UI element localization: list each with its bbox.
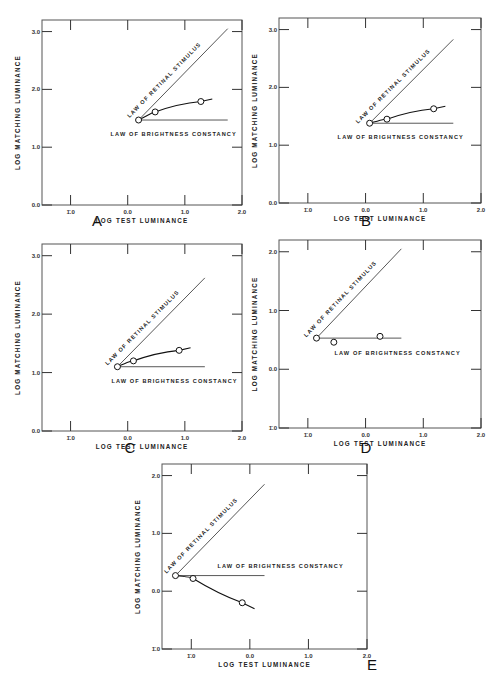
x-tick-label: 0.0: [246, 653, 255, 659]
x-axis-label: LOG TEST LUMINANCE: [334, 440, 427, 447]
brightness-constancy-label: LAW OF BRIGHTNESS CONSTANCY: [217, 563, 343, 569]
panel-letter: D: [361, 439, 372, 456]
retinal-stimulus-label: LAW OF RETINAL STIMULUS: [104, 289, 180, 367]
y-tick-label: 0.0: [269, 366, 278, 372]
panel-letter: C: [125, 439, 136, 456]
data-point: [331, 339, 337, 345]
panel-b: 1̄.00.01.02.00.01.02.03.0LOG TEST LUMINA…: [251, 18, 486, 229]
x-tick-label: 1.0: [181, 209, 190, 215]
y-tick-label: 1.0: [269, 308, 278, 314]
y-tick-label: 1.0: [32, 370, 41, 376]
panel-letter: A: [92, 212, 102, 229]
x-tick-label: 2.0: [477, 432, 486, 438]
retinal-stimulus-line: [139, 29, 228, 120]
x-tick-label: 1̄.0: [304, 207, 313, 213]
x-tick-label: 1̄.0: [66, 209, 75, 215]
retinal-stimulus-label: LAW OF RETINAL STIMULUS: [355, 47, 432, 124]
figure-svg: 1̄.00.01.02.00.01.02.03.0LOG TEST LUMINA…: [0, 0, 493, 681]
y-tick-label: 2.0: [269, 84, 278, 90]
x-tick-label: 1.0: [419, 432, 428, 438]
x-axis-label: LOG TEST LUMINANCE: [218, 661, 311, 668]
y-tick-label: 2.0: [32, 86, 41, 92]
brightness-constancy-label: LAW OF BRIGHTNESS CONSTANCY: [111, 378, 237, 384]
data-point: [176, 347, 182, 353]
x-tick-label: 0.0: [124, 209, 133, 215]
panel-letter: B: [361, 212, 371, 229]
retinal-stimulus-label: LAW OF RETINAL STIMULUS: [303, 259, 378, 338]
brightness-constancy-label: LAW OF BRIGHTNESS CONSTANCY: [335, 350, 461, 356]
x-tick-label: 1̄.0: [187, 653, 196, 659]
data-point: [130, 358, 136, 364]
x-tick-label: 0.0: [361, 432, 370, 438]
x-tick-label: 1.0: [304, 653, 313, 659]
x-tick-label: 1.0: [419, 207, 428, 213]
y-tick-label: 0.0: [32, 202, 41, 208]
y-tick-label: 2.0: [32, 311, 41, 317]
plot-frame: [42, 20, 242, 205]
data-point: [152, 109, 158, 115]
y-tick-label: 0.0: [152, 588, 161, 594]
panel-a: 1̄.00.01.02.00.01.02.03.0LOG TEST LUMINA…: [14, 20, 247, 229]
x-tick-label: 2.0: [238, 209, 247, 215]
y-tick-label: 0.0: [32, 428, 41, 434]
x-tick-label: 1̄.0: [66, 435, 75, 441]
y-tick-label: 1.0: [152, 530, 161, 536]
brightness-constancy-label: LAW OF BRIGHTNESS CONSTANCY: [111, 131, 237, 137]
y-axis-label: LOG MATCHING LUMINANCE: [14, 280, 21, 395]
y-axis-label: LOG MATCHING LUMINANCE: [134, 499, 141, 614]
y-tick-label: 0.0: [269, 200, 278, 206]
data-point: [136, 117, 142, 123]
panel-letter: E: [367, 656, 377, 673]
data-point: [198, 99, 204, 105]
x-tick-label: 2.0: [477, 207, 486, 213]
x-axis-label: LOG TEST LUMINANCE: [96, 443, 189, 450]
y-tick-label: 1̄.0: [152, 646, 161, 652]
y-tick-label: 1.0: [32, 144, 41, 150]
retinal-stimulus-label: LAW OF RETINAL STIMULUS: [126, 41, 202, 119]
plot-frame: [42, 244, 242, 431]
data-point: [172, 573, 178, 579]
y-tick-label: 1.0: [269, 142, 278, 148]
x-tick-label: 1̄.0: [304, 432, 313, 438]
y-tick-label: 3.0: [269, 27, 278, 33]
x-tick-label: 1.0: [181, 435, 190, 441]
data-point: [114, 364, 120, 370]
brightness-constancy-label: LAW OF BRIGHTNESS CONSTANCY: [338, 134, 464, 140]
x-tick-label: 2.0: [238, 435, 247, 441]
y-axis-label: LOG MATCHING LUMINANCE: [251, 53, 258, 168]
y-axis-label: LOG MATCHING LUMINANCE: [251, 277, 258, 392]
data-point: [367, 120, 373, 126]
data-point: [314, 335, 320, 341]
data-point: [384, 116, 390, 122]
retinal-stimulus-line: [317, 249, 402, 338]
panel-c: 1̄.00.01.02.00.01.02.03.0LOG TEST LUMINA…: [14, 244, 247, 456]
y-tick-label: 3.0: [32, 29, 41, 35]
y-tick-label: 2.0: [152, 473, 161, 479]
plot-frame: [279, 18, 481, 203]
data-point: [431, 106, 437, 112]
x-axis-label: LOG TEST LUMINANCE: [334, 215, 427, 222]
y-tick-label: 3.0: [32, 253, 41, 259]
data-point: [190, 575, 196, 581]
y-tick-label: 1̄.0: [269, 425, 278, 431]
y-axis-label: LOG MATCHING LUMINANCE: [14, 55, 21, 170]
y-tick-label: 2.0: [269, 249, 278, 255]
data-point: [377, 333, 383, 339]
x-axis-label: LOG TEST LUMINANCE: [96, 217, 189, 224]
panel-e: 1̄.00.01.02.01̄.00.01.02.0LOG TEST LUMIN…: [134, 464, 377, 673]
data-point: [239, 600, 245, 606]
panel-d: 1̄.00.01.02.01̄.00.01.02.0LOG TEST LUMIN…: [251, 240, 486, 456]
plot-frame: [162, 464, 367, 649]
retinal-stimulus-line: [370, 39, 454, 123]
